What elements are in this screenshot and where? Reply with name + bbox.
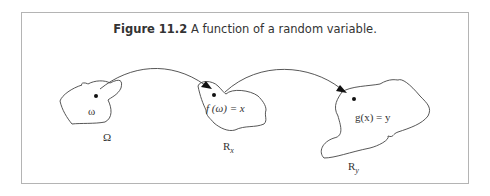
g-mapping-label: g(x) = y	[355, 111, 391, 124]
rx-point	[212, 93, 216, 97]
ry-point	[352, 97, 356, 101]
omega-set-shape	[60, 80, 122, 124]
omega-point	[94, 94, 98, 98]
rx-set-label: Rx	[223, 140, 234, 155]
diagram: ω Ω f (ω) = x Rx g(x) = y Ry	[0, 0, 490, 196]
omega-point-label: ω	[88, 105, 95, 117]
f-arrow	[100, 68, 205, 89]
f-mapping-label: f (ω) = x	[206, 102, 245, 115]
omega-set-label: Ω	[103, 131, 111, 143]
ry-set-label: Ry	[348, 160, 359, 175]
g-arrow	[225, 69, 340, 92]
